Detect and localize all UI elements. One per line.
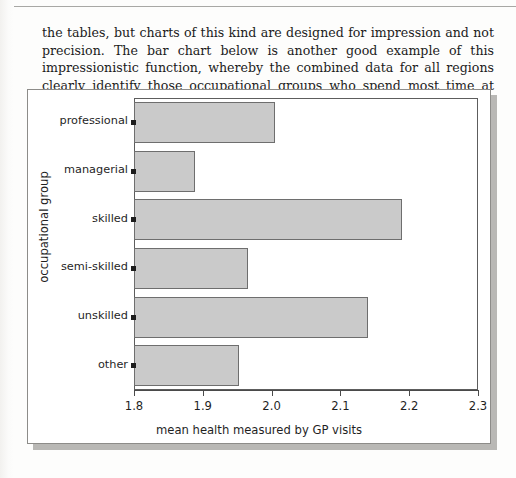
x-tick-2.2 [409,390,410,396]
y-tick-skilled [131,217,136,222]
x-tick-label-1.9: 1.9 [183,399,223,413]
page-top-rule [0,6,516,7]
bar-skilled [134,199,402,240]
x-tick-label-2.3: 2.3 [458,399,498,413]
y-tick-managerial [131,169,136,174]
x-axis-title: mean health measured by GP visits [27,423,491,437]
x-tick-label-1.8: 1.8 [114,399,154,413]
y-label-professional: professional [32,114,128,127]
bar-managerial [134,151,195,192]
bar-chart: professionalmanagerialskilledsemi-skille… [27,89,491,444]
y-axis-title: occupational group [37,147,51,307]
y-tick-professional [131,120,136,125]
x-tick-2.0 [272,390,273,396]
y-tick-semi-skilled [131,266,136,271]
x-tick-2.1 [340,390,341,396]
x-tick-1.9 [203,390,204,396]
bar-other [134,345,239,386]
x-tick-label-2.0: 2.0 [252,399,292,413]
x-tick-2.3 [478,390,479,396]
x-tick-label-2.2: 2.2 [389,399,429,413]
y-tick-unskilled [131,315,136,320]
x-axis-line [134,390,479,391]
page-left-edge-shading [0,0,14,478]
x-tick-label-2.1: 2.1 [320,399,360,413]
y-label-other: other [32,358,128,371]
y-label-unskilled: unskilled [32,309,128,322]
x-tick-1.8 [134,390,135,396]
y-tick-other [131,363,136,368]
bar-professional [134,102,275,143]
bar-semi-skilled [134,248,248,289]
bar-unskilled [134,297,368,338]
bars-layer [134,98,478,390]
